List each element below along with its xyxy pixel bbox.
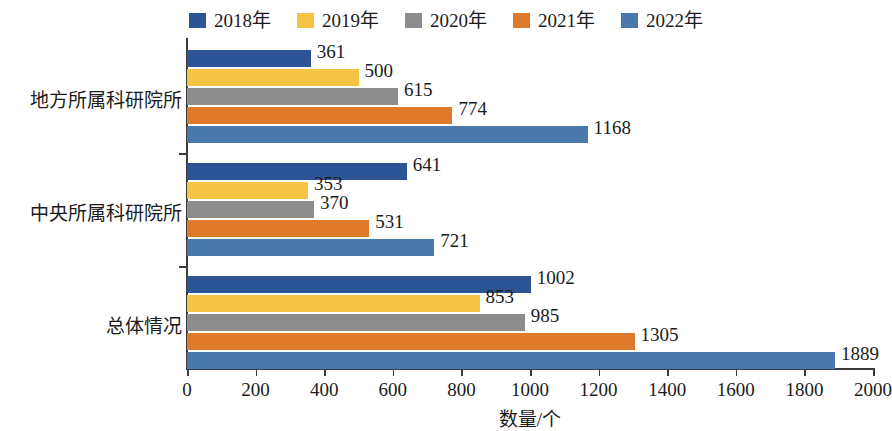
x-tick-label: 0 <box>182 379 192 401</box>
x-tick <box>393 368 395 376</box>
x-tick-label: 1400 <box>648 379 686 401</box>
bar[interactable] <box>187 201 314 218</box>
bar[interactable] <box>187 107 452 124</box>
x-tick-label: 1200 <box>580 379 618 401</box>
bar[interactable] <box>187 182 308 199</box>
legend-item-2022年[interactable]: 2022年 <box>621 11 703 30</box>
legend-item-2018年[interactable]: 2018年 <box>189 11 271 30</box>
bar-value-label: 370 <box>320 192 349 214</box>
bar-value-label: 531 <box>375 211 404 233</box>
legend-label: 2018年 <box>214 11 271 30</box>
bar-value-label: 774 <box>458 98 487 120</box>
bar-value-label: 500 <box>365 60 394 82</box>
x-tick <box>187 368 189 376</box>
x-tick <box>530 368 532 376</box>
x-tick-label: 2000 <box>854 379 892 401</box>
x-tick <box>324 368 326 376</box>
x-tick <box>599 368 601 376</box>
legend-swatch-icon <box>621 13 638 28</box>
bar[interactable] <box>187 126 588 143</box>
legend-label: 2022年 <box>646 11 703 30</box>
bar-value-label: 721 <box>440 230 469 252</box>
legend-item-2020年[interactable]: 2020年 <box>405 11 487 30</box>
y-tick <box>179 266 187 268</box>
legend-swatch-icon <box>513 13 530 28</box>
bar[interactable] <box>187 333 635 350</box>
chart-legend: 2018年2019年2020年2021年2022年 <box>0 6 892 34</box>
legend-label: 2020年 <box>430 11 487 30</box>
bar[interactable] <box>187 50 311 67</box>
bar[interactable] <box>187 314 525 331</box>
x-tick <box>873 368 875 376</box>
y-tick <box>179 153 187 155</box>
legend-swatch-icon <box>297 13 314 28</box>
bar-value-label: 1002 <box>537 267 575 289</box>
x-tick-label: 1000 <box>511 379 549 401</box>
bar[interactable] <box>187 88 398 105</box>
bar[interactable] <box>187 276 531 293</box>
bar[interactable] <box>187 69 359 86</box>
x-tick <box>736 368 738 376</box>
x-axis-title: 数量/个 <box>187 404 873 431</box>
x-tick <box>461 368 463 376</box>
bar-value-label: 1168 <box>594 117 631 139</box>
bar-value-label: 615 <box>404 79 433 101</box>
category-label: 地方所属科研院所 <box>0 85 182 112</box>
bar-value-label: 853 <box>486 286 515 308</box>
category-label: 中央所属科研院所 <box>0 198 182 225</box>
x-tick-label: 1800 <box>785 379 823 401</box>
category-label: 总体情况 <box>0 311 182 338</box>
legend-swatch-icon <box>405 13 422 28</box>
x-tick-label: 1600 <box>717 379 755 401</box>
bar[interactable] <box>187 220 369 237</box>
bar[interactable] <box>187 295 480 312</box>
x-tick-label: 200 <box>241 379 270 401</box>
x-tick <box>667 368 669 376</box>
legend-label: 2019年 <box>322 11 379 30</box>
x-tick-label: 600 <box>379 379 408 401</box>
x-tick-label: 400 <box>310 379 339 401</box>
bar[interactable] <box>187 352 835 369</box>
bar-value-label: 641 <box>413 154 442 176</box>
legend-item-2021年[interactable]: 2021年 <box>513 11 595 30</box>
bar-value-label: 361 <box>317 41 346 63</box>
bar[interactable] <box>187 239 434 256</box>
x-tick <box>804 368 806 376</box>
plot-area: 0200400600800100012001400160018002000 36… <box>187 38 873 368</box>
legend-label: 2021年 <box>538 11 595 30</box>
bar-value-label: 1889 <box>841 343 879 365</box>
legend-item-2019年[interactable]: 2019年 <box>297 11 379 30</box>
bar-value-label: 1305 <box>641 324 679 346</box>
x-tick-label: 800 <box>447 379 476 401</box>
bar-value-label: 985 <box>531 305 560 327</box>
legend-swatch-icon <box>189 13 206 28</box>
x-tick <box>256 368 258 376</box>
bar[interactable] <box>187 163 407 180</box>
